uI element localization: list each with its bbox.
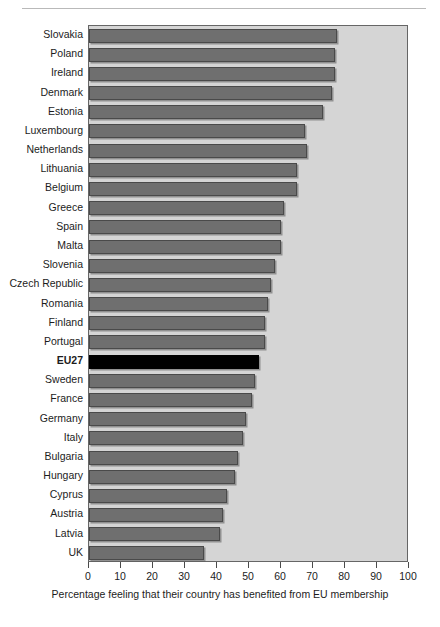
bar-row — [89, 199, 407, 218]
bar — [89, 220, 281, 234]
category-label: Ireland — [0, 63, 83, 82]
x-tick-label: 80 — [338, 570, 350, 582]
bar — [89, 431, 243, 445]
bar-row — [89, 295, 407, 314]
x-tick-label: 70 — [306, 570, 318, 582]
x-tick-mark — [280, 562, 281, 568]
x-tick-label: 50 — [242, 570, 254, 582]
category-label: Slovakia — [0, 25, 83, 44]
x-tick-label: 90 — [370, 570, 382, 582]
bar — [89, 29, 337, 43]
bar — [89, 48, 335, 62]
bar — [89, 105, 323, 119]
category-label: France — [0, 389, 83, 408]
category-label: Hungary — [0, 466, 83, 485]
category-label: Bulgaria — [0, 447, 83, 466]
category-label: Finland — [0, 313, 83, 332]
bar-row — [89, 429, 407, 448]
bars-layer — [89, 26, 407, 561]
bar — [89, 374, 255, 388]
bar-row — [89, 103, 407, 122]
x-axis-title: Percentage feeling that their country ha… — [0, 588, 440, 600]
bar-row — [89, 390, 407, 409]
bar-row — [89, 410, 407, 429]
category-label: Malta — [0, 236, 83, 255]
category-label: Czech Republic — [0, 274, 83, 293]
bar-row — [89, 333, 407, 352]
x-tick-label: 100 — [399, 570, 417, 582]
bar — [89, 335, 265, 349]
x-tick-mark — [120, 562, 121, 568]
bar-row — [89, 352, 407, 371]
bar — [89, 527, 220, 541]
x-tick-mark — [152, 562, 153, 568]
bar — [89, 201, 284, 215]
category-label: Denmark — [0, 83, 83, 102]
x-tick-label: 20 — [146, 570, 158, 582]
x-tick-mark — [88, 562, 89, 568]
category-axis-labels: SlovakiaPolandIrelandDenmarkEstoniaLuxem… — [0, 25, 83, 562]
bar — [89, 86, 332, 100]
category-label: Sweden — [0, 370, 83, 389]
bar-row — [89, 544, 407, 563]
bar — [89, 163, 297, 177]
x-tick-label: 60 — [274, 570, 286, 582]
category-label: Greece — [0, 198, 83, 217]
category-label: Austria — [0, 504, 83, 523]
x-tick-label: 10 — [114, 570, 126, 582]
bar-row — [89, 141, 407, 160]
x-tick-mark — [312, 562, 313, 568]
bar-row — [89, 448, 407, 467]
category-label: Estonia — [0, 102, 83, 121]
category-label: Netherlands — [0, 140, 83, 159]
bar-row — [89, 256, 407, 275]
bar-row — [89, 122, 407, 141]
category-label: EU27 — [0, 351, 83, 370]
bar-row — [89, 275, 407, 294]
bar-row — [89, 179, 407, 198]
bar — [89, 489, 227, 503]
bar-row — [89, 84, 407, 103]
category-label: Poland — [0, 44, 83, 63]
bar-row — [89, 486, 407, 505]
bar-row — [89, 505, 407, 524]
bar — [89, 546, 204, 560]
bar — [89, 470, 235, 484]
plot-area — [88, 25, 408, 562]
bar-row — [89, 45, 407, 64]
chart-page: SlovakiaPolandIrelandDenmarkEstoniaLuxem… — [0, 0, 440, 627]
bar-row — [89, 525, 407, 544]
bar — [89, 508, 223, 522]
bar — [89, 259, 275, 273]
bar-chart-figure: SlovakiaPolandIrelandDenmarkEstoniaLuxem… — [0, 0, 440, 627]
x-tick-mark — [344, 562, 345, 568]
category-label: Luxembourg — [0, 121, 83, 140]
bar — [89, 297, 268, 311]
bar-row — [89, 467, 407, 486]
x-tick-mark — [408, 562, 409, 568]
category-label: UK — [0, 543, 83, 562]
bar-row — [89, 371, 407, 390]
bar-row — [89, 64, 407, 83]
bar — [89, 278, 271, 292]
category-label: Romania — [0, 294, 83, 313]
bar-highlight — [89, 355, 259, 369]
x-tick-mark — [184, 562, 185, 568]
bar-row — [89, 314, 407, 333]
x-tick-mark — [376, 562, 377, 568]
bar — [89, 316, 265, 330]
category-label: Germany — [0, 409, 83, 428]
bar — [89, 124, 305, 138]
x-tick-label: 40 — [210, 570, 222, 582]
bar — [89, 182, 297, 196]
bar — [89, 144, 307, 158]
bar-row — [89, 237, 407, 256]
bar-row — [89, 26, 407, 45]
category-label: Latvia — [0, 524, 83, 543]
bar — [89, 412, 246, 426]
category-label: Belgium — [0, 178, 83, 197]
bar — [89, 393, 252, 407]
bar — [89, 451, 238, 465]
bar-row — [89, 218, 407, 237]
bar-row — [89, 160, 407, 179]
